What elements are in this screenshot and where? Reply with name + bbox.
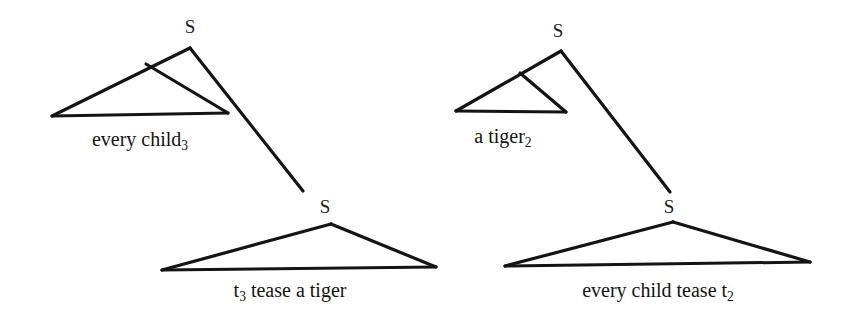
right-upper-phrase-index: 2 xyxy=(525,135,532,150)
right-upper-phrase-label: a tiger2 xyxy=(474,126,531,146)
syntax-derivation-figure: S every child3 S t3 tease a tiger S a ti… xyxy=(0,0,850,318)
left-lower-triangle xyxy=(162,224,436,270)
tree-line-layer xyxy=(0,0,850,318)
left-upper-triangle xyxy=(52,48,228,116)
left-upper-phrase-index: 3 xyxy=(181,138,188,153)
left-movement-line xyxy=(190,48,303,191)
right-lower-phrase-index: 2 xyxy=(727,289,734,304)
left-lower-phrase-label: t3 tease a tiger xyxy=(234,280,347,300)
right-lower-phrase-label: every child tease t2 xyxy=(582,280,734,300)
right-lower-s-node-label: S xyxy=(664,197,675,216)
right-lower-triangle xyxy=(505,222,810,266)
right-upper-phrase-text: a tiger xyxy=(474,125,525,147)
right-upper-s-node-label: S xyxy=(553,21,564,40)
right-lower-phrase-text-before: every child tease t xyxy=(582,279,727,301)
left-lower-phrase-text-after: tease a tiger xyxy=(246,279,347,301)
right-movement-line xyxy=(561,51,670,192)
left-upper-s-node-label: S xyxy=(185,17,196,36)
left-upper-phrase-label: every child3 xyxy=(92,129,188,149)
left-upper-phrase-text: every child xyxy=(92,128,181,150)
right-upper-triangle xyxy=(456,51,566,112)
left-lower-s-node-label: S xyxy=(320,197,331,216)
